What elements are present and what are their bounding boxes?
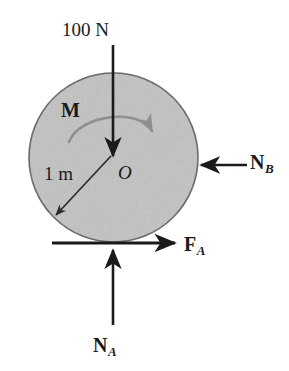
free-body-diagram-figure: 100 N M 1 m O NB FA NA (0, 0, 289, 371)
diagram-canvas (0, 0, 289, 371)
friction-a-subscript: A (196, 243, 205, 258)
reaction-b-subscript: B (264, 161, 273, 176)
applied-load-label: 100 N (62, 20, 109, 39)
reaction-b-label: NB (250, 152, 274, 175)
friction-a-label: FA (184, 234, 205, 257)
reaction-b-symbol: N (250, 151, 264, 173)
center-point-label: O (118, 163, 132, 182)
friction-a-symbol: F (184, 233, 196, 255)
reaction-a-symbol: N (93, 334, 107, 356)
reaction-a-label: NA (93, 335, 117, 358)
moment-label: M (61, 100, 80, 120)
radius-label: 1 m (44, 164, 73, 183)
reaction-a-subscript: A (107, 344, 116, 359)
